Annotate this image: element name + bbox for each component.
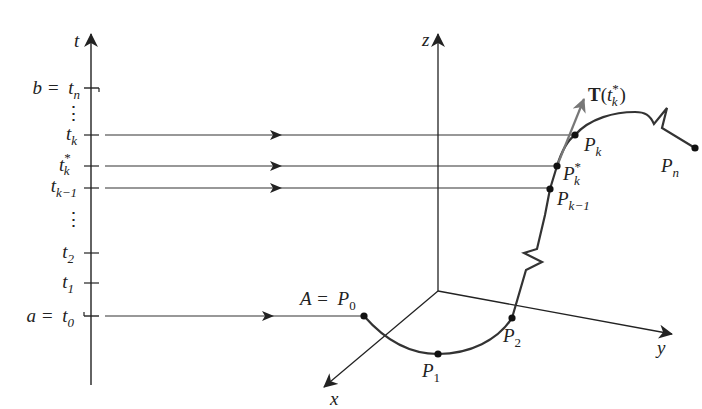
point-P0 <box>360 312 367 319</box>
point-P2 <box>508 314 515 321</box>
tick-label-t0: a = t0 <box>26 305 74 330</box>
t-axis: t b = tn ⋮ tk t*k tk−1 ⋮ t2 t1 <box>26 30 99 385</box>
t-axis-label: t <box>74 30 80 51</box>
tangent-vector-label: T(t*k) <box>588 81 626 109</box>
point-label-Pkstar: P*k <box>562 159 581 188</box>
curve <box>364 108 695 354</box>
parametric-curve-diagram: t b = tn ⋮ tk t*k tk−1 ⋮ t2 t1 <box>0 0 702 409</box>
curve-points: A = P0 P1 P2 Pk−1 P*k Pk Pn <box>298 131 699 385</box>
point-Pn <box>691 144 698 151</box>
tick-label-t1: t1 <box>62 271 74 296</box>
point-label-Pk: Pk <box>583 134 602 159</box>
point-label-P2: P2 <box>502 325 521 350</box>
tick-label-tk: tk <box>66 123 77 148</box>
ellipsis-top: ⋮ <box>64 103 83 124</box>
y-axis <box>438 291 672 334</box>
point-label-P0: A = P0 <box>298 288 356 313</box>
y-axis-label: y <box>655 337 666 358</box>
tangent-vector-arrow <box>557 99 584 166</box>
point-P1 <box>434 350 441 357</box>
point-label-Pkm1: Pk−1 <box>556 188 590 213</box>
tick-label-t2: t2 <box>62 241 74 266</box>
point-Pk <box>571 131 578 138</box>
point-label-Pn: Pn <box>660 155 679 180</box>
point-Pkstar <box>553 162 560 169</box>
ellipsis-bottom: ⋮ <box>64 209 83 230</box>
tick-label-tkm1: tk−1 <box>51 175 77 200</box>
x-axis-label: x <box>329 388 339 409</box>
curve-rising-segment <box>512 189 550 318</box>
tick-label-tn: b = tn <box>32 77 80 102</box>
z-axis-label: z <box>421 29 430 50</box>
tick-label-tkstar: t*k <box>59 150 71 178</box>
point-label-P1: P1 <box>421 360 440 385</box>
point-Pkm1 <box>546 185 553 192</box>
